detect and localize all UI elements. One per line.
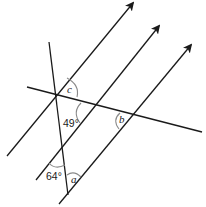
angle-label-a: a xyxy=(71,173,77,185)
angle-label-49: 49° xyxy=(63,117,79,129)
angle-label-b: b xyxy=(119,113,125,125)
angle-arc-64 xyxy=(49,163,65,167)
angle-label-c: c xyxy=(67,83,72,95)
angle-label-64: 64° xyxy=(46,170,62,182)
parallel-lines-diagram: c 49° b 64° a xyxy=(0,0,206,207)
transversal-shallow xyxy=(27,87,202,132)
